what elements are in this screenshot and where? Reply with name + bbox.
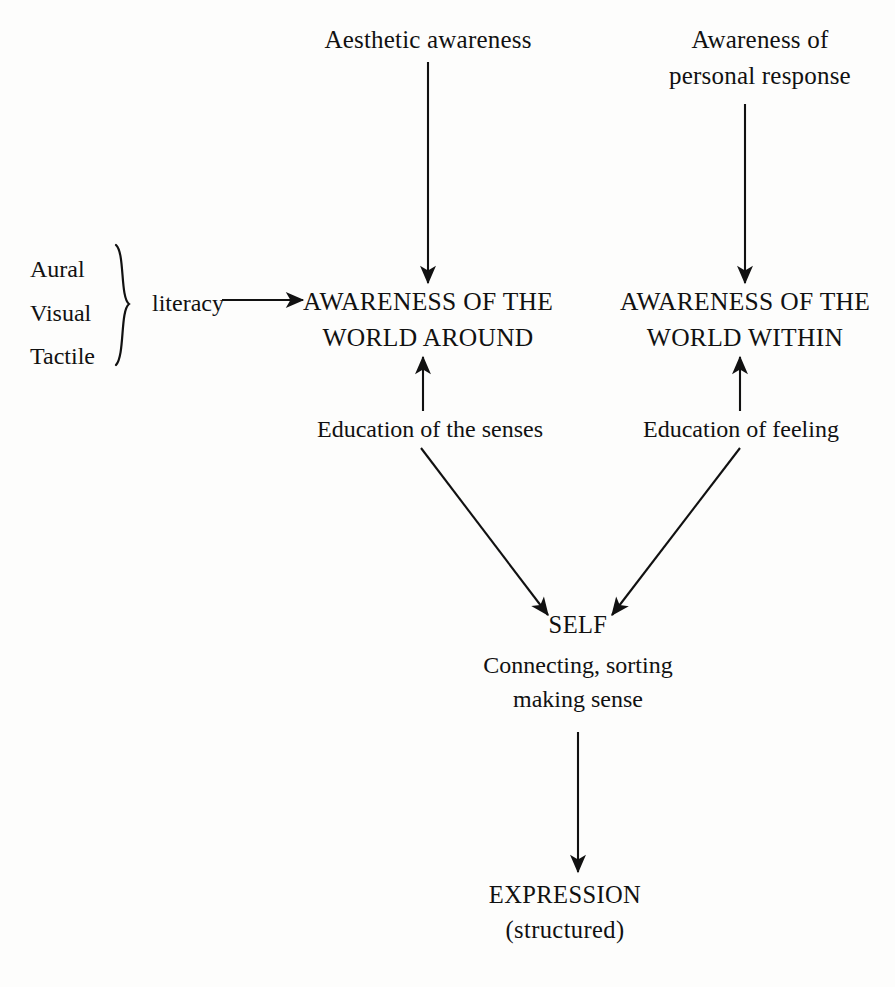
node-literacy: literacy — [152, 286, 224, 320]
node-expression-line1: EXPRESSION — [489, 878, 641, 913]
node-connecting-sorting-line1: Connecting, sorting — [483, 648, 672, 682]
node-awareness-world-within-line2: WORLD WITHIN — [620, 320, 870, 356]
connector-education-senses-to-self — [421, 448, 548, 615]
node-expression-line2: (structured) — [489, 913, 641, 948]
node-aesthetic-awareness: Aesthetic awareness — [324, 22, 531, 58]
node-awareness-world-within: AWARENESS OF THE WORLD WITHIN — [620, 284, 870, 356]
node-expression: EXPRESSION (structured) — [489, 878, 641, 948]
node-awareness-personal-response-line2: personal response — [669, 58, 851, 94]
node-awareness-world-within-line1: AWARENESS OF THE — [620, 284, 870, 320]
node-self: SELF — [549, 608, 608, 643]
node-modalities-list: Aural Visual Tactile — [30, 248, 95, 379]
modality-item-aural: Aural — [30, 248, 95, 292]
node-awareness-world-around-line2: WORLD AROUND — [303, 320, 553, 356]
node-awareness-personal-response-line1: Awareness of — [669, 22, 851, 58]
node-connecting-sorting: Connecting, sorting making sense — [483, 648, 672, 716]
connector-layer — [0, 0, 895, 987]
node-connecting-sorting-line2: making sense — [483, 682, 672, 716]
node-aesthetic-awareness-line1: Aesthetic awareness — [324, 22, 531, 58]
modality-item-visual: Visual — [30, 292, 95, 336]
node-awareness-world-around: AWARENESS OF THE WORLD AROUND — [303, 284, 553, 356]
modality-item-tactile: Tactile — [30, 335, 95, 379]
modalities-brace — [112, 243, 146, 367]
node-education-of-the-senses: Education of the senses — [317, 412, 543, 446]
node-awareness-personal-response: Awareness of personal response — [669, 22, 851, 93]
node-awareness-world-around-line1: AWARENESS OF THE — [303, 284, 553, 320]
node-education-of-feeling: Education of feeling — [643, 412, 839, 446]
connector-education-feeling-to-self — [612, 448, 740, 615]
node-self-label: SELF — [549, 608, 608, 643]
node-literacy-label: literacy — [152, 286, 224, 320]
node-education-of-the-senses-label: Education of the senses — [317, 412, 543, 446]
diagram-canvas: Aesthetic awareness Awareness of persona… — [0, 0, 895, 987]
node-education-of-feeling-label: Education of feeling — [643, 412, 839, 446]
